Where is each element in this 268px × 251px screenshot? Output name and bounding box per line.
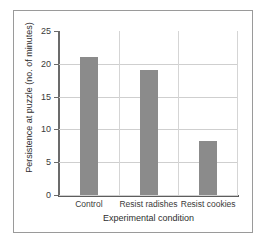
bar <box>140 70 158 195</box>
y-axis-tick-mark <box>54 129 58 130</box>
y-axis-line <box>58 31 60 195</box>
gridline <box>59 195 238 196</box>
y-axis-tick-mark <box>54 64 58 65</box>
category-divider <box>178 31 179 195</box>
y-axis-tick-mark <box>54 162 58 163</box>
y-axis-tick-label: 25 <box>41 27 51 36</box>
category-divider <box>237 31 238 195</box>
bar <box>199 141 217 195</box>
bar <box>80 57 98 195</box>
y-axis-tick-mark <box>54 31 58 32</box>
category-divider <box>119 31 120 195</box>
y-axis-title: Persistence at puzzle (no. of minutes) <box>25 16 34 180</box>
x-axis-tick-label: Resist cookies <box>181 200 236 209</box>
x-axis-title: Experimental condition <box>59 214 238 223</box>
x-axis-tick-label: Control <box>75 200 102 209</box>
y-axis-tick-label: 5 <box>46 158 51 167</box>
y-axis-tick-mark <box>54 195 58 196</box>
plot-area: 0510152025 ControlResist radishesResist … <box>59 31 238 195</box>
x-axis-tick-label: Resist radishes <box>119 200 177 209</box>
y-axis-tick-label: 20 <box>41 59 51 68</box>
y-axis-tick-mark <box>54 97 58 98</box>
y-axis-tick-label: 0 <box>46 191 51 200</box>
y-axis-tick-label: 15 <box>41 92 51 101</box>
gridline <box>59 31 238 32</box>
y-axis-tick-label: 10 <box>41 125 51 134</box>
chart-figure-frame: 0510152025 ControlResist radishesResist … <box>13 10 253 233</box>
